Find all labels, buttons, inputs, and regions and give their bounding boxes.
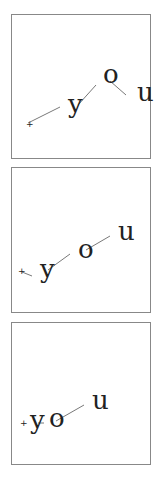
letter-node-y: y xyxy=(67,89,83,119)
letter-node-y: y xyxy=(39,254,55,284)
panel-3: +you xyxy=(11,322,151,465)
start-marker-icon: + xyxy=(26,119,34,129)
letter-node-u: u xyxy=(92,385,109,415)
letter-node-o: o xyxy=(49,403,65,433)
letter-node-o: o xyxy=(103,59,119,89)
panel-2: +you xyxy=(11,167,151,313)
start-marker-icon: + xyxy=(18,266,26,276)
letter-node-u: u xyxy=(137,77,154,107)
diagram-canvas: +you xyxy=(12,15,152,160)
diagram-canvas: +you xyxy=(12,168,152,314)
diagram-canvas: +you xyxy=(12,323,152,466)
letter-node-y: y xyxy=(29,405,45,435)
panel-1: +you xyxy=(11,14,151,159)
start-marker-icon: + xyxy=(20,418,28,428)
letter-node-o: o xyxy=(78,234,94,264)
letter-node-u: u xyxy=(118,216,135,246)
